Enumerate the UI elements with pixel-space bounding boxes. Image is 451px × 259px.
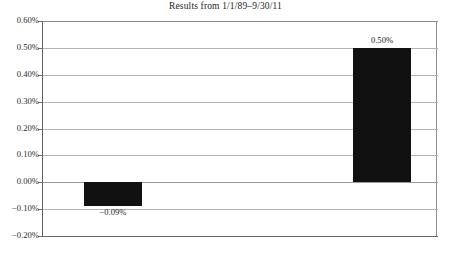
bar bbox=[353, 48, 411, 182]
y-axis-label: 0.60% bbox=[0, 15, 39, 25]
bar bbox=[84, 182, 142, 206]
y-axis-label: 0.10% bbox=[0, 149, 39, 159]
y-axis-label: 0.00% bbox=[0, 176, 39, 186]
plot-area: 0.60%0.50%0.40%0.30%0.20%0.10%0.00%−0.10… bbox=[42, 21, 437, 236]
bar-data-label: −0.09% bbox=[64, 207, 162, 217]
chart-title: Results from 1/1/89–9/30/11 bbox=[0, 1, 451, 11]
y-axis-label: 0.40% bbox=[0, 69, 39, 79]
bar-chart: Results from 1/1/89–9/30/11 0.60%0.50%0.… bbox=[0, 0, 451, 259]
bar-data-label: 0.50% bbox=[333, 35, 431, 45]
y-axis-label: −0.20% bbox=[0, 230, 39, 240]
y-axis-label: 0.30% bbox=[0, 96, 39, 106]
gridline bbox=[43, 21, 438, 22]
y-axis-label: −0.10% bbox=[0, 203, 39, 213]
gridline bbox=[43, 236, 438, 237]
y-axis-label: 0.50% bbox=[0, 42, 39, 52]
y-axis-label: 0.20% bbox=[0, 123, 39, 133]
